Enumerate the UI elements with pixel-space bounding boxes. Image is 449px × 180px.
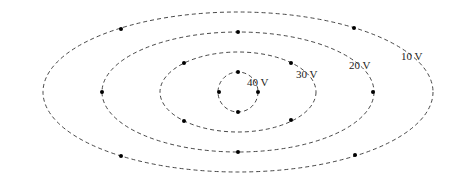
field-point-dot [289, 118, 293, 122]
field-point-dot [236, 110, 240, 114]
field-points-10v [119, 26, 357, 158]
field-point-dot [256, 90, 260, 94]
field-point-dot [236, 150, 240, 154]
field-points-20v [100, 30, 375, 154]
field-point-dot [352, 26, 356, 30]
label-10v: 10 V [401, 50, 423, 62]
field-point-dot [289, 61, 293, 65]
equipotential-diagram: 10 V 20 V 30 V 40 V [0, 0, 449, 180]
contour-20v: 20 V [100, 30, 375, 154]
label-30v: 30 V [296, 68, 318, 80]
field-point-dot [371, 90, 375, 94]
contour-30v: 30 V [160, 52, 318, 132]
field-point-dot [236, 70, 240, 74]
field-point-dot [100, 90, 104, 94]
field-point-dot [119, 154, 123, 158]
equipotential-diagram-svg: 10 V 20 V 30 V 40 V [0, 0, 449, 180]
field-point-dot [353, 153, 357, 157]
field-point-dot [182, 61, 186, 65]
label-20v: 20 V [349, 59, 371, 71]
contour-40v: 40 V [217, 70, 269, 114]
field-point-dot [119, 27, 123, 31]
label-40v: 40 V [247, 76, 269, 88]
field-point-dot [217, 90, 221, 94]
field-point-dot [236, 30, 240, 34]
field-point-dot [182, 119, 186, 123]
equipotential-line-20v [102, 32, 374, 152]
